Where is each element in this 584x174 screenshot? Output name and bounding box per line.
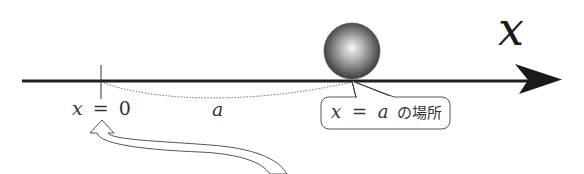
hollow-curved-arrow-icon [90,120,287,174]
axis-label-text: x [498,2,524,56]
x-axis-arrowhead-icon [515,64,562,94]
callout-value: a [378,101,389,122]
distance-dotted-curve [104,82,352,98]
origin-equals: = [93,97,109,119]
origin-var: x [72,97,83,119]
origin-value: 0 [119,97,131,119]
callout-var: x [331,101,341,122]
axis-label: x [498,6,524,52]
distance-label: a [212,100,223,119]
origin-label: x = 0 [72,99,131,118]
callout-label: x = a の場所 [331,103,442,121]
callout-suffix: の場所 [397,104,442,122]
ball [324,23,380,79]
distance-label-text: a [212,98,223,120]
callout-equals: = [352,101,367,122]
diagram-canvas [0,0,584,174]
